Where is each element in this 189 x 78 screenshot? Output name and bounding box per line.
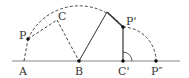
segment-PC bbox=[28, 20, 57, 39]
point-Cprime bbox=[121, 59, 125, 63]
segment-CB bbox=[57, 20, 79, 61]
label-P: P bbox=[19, 29, 27, 42]
label-B: B bbox=[75, 65, 83, 78]
arc-about-Cprime bbox=[123, 27, 156, 61]
point-Pdoubleprime bbox=[154, 59, 158, 63]
segment-BT bbox=[79, 12, 107, 61]
geometry-diagram: A B C P P' C' P″ bbox=[0, 0, 189, 78]
point-P bbox=[26, 37, 30, 41]
label-C: C bbox=[58, 10, 66, 23]
right-angle-arc bbox=[123, 52, 132, 61]
label-Pdoubleprime: P″ bbox=[151, 65, 163, 78]
segment-TPprime bbox=[107, 12, 123, 27]
label-Pprime: P' bbox=[126, 15, 136, 28]
label-A: A bbox=[18, 65, 28, 78]
arc-about-B bbox=[28, 6, 123, 39]
segment-AP bbox=[24, 39, 28, 61]
point-B bbox=[77, 59, 81, 63]
label-Cprime: C' bbox=[118, 65, 129, 78]
point-Pprime bbox=[121, 25, 125, 29]
